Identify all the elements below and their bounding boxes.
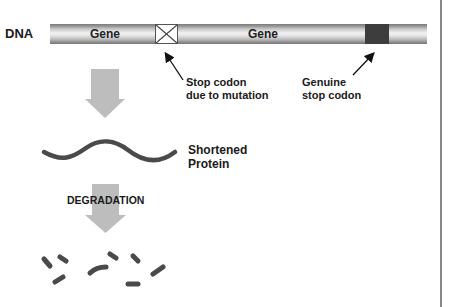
protein-label-line2: Protein [188,157,247,171]
genuine-stop-label-line1: Genuine [302,76,361,89]
genuine-stop-label: Genuine stop codon [302,76,361,102]
protein-chain-icon [44,141,175,160]
mutation-pointer-arrow-icon [166,54,183,80]
genuine-stop-label-line2: stop codon [302,89,361,102]
protein-fragments-icon [44,254,163,284]
mutation-stop-label-line1: Stop codon [186,76,269,89]
mutation-stop-label: Stop codon due to mutation [186,76,269,102]
shortened-protein-label: Shortened Protein [188,143,247,171]
down-arrow-icon [85,184,126,233]
degradation-label: DEGRADATION [67,194,144,207]
protein-label-line1: Shortened [188,143,247,157]
down-arrow-icon [85,69,125,118]
genuine-pointer-arrow-icon [353,54,373,75]
mutation-stop-label-line2: due to mutation [186,89,269,102]
